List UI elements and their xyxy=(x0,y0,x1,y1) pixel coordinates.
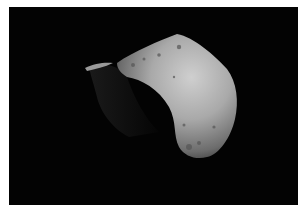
asteroid-body xyxy=(117,34,237,158)
space-photo xyxy=(9,7,298,205)
asteroid-illustration xyxy=(9,7,298,205)
